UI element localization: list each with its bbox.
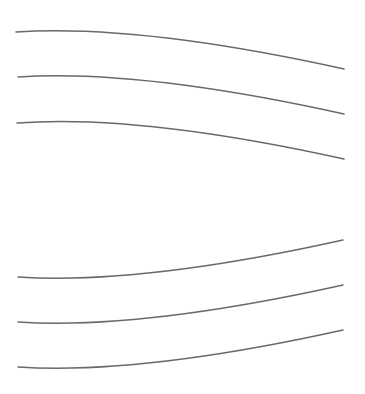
upper-arc-2 — [18, 76, 344, 114]
lower-arc-2 — [18, 285, 343, 323]
upper-arc-3 — [17, 122, 344, 160]
lower-arcs-group — [18, 240, 343, 368]
curved-lines-diagram — [0, 0, 365, 394]
upper-arcs-group — [16, 31, 344, 159]
lower-arc-3 — [18, 330, 343, 368]
lower-arc-1 — [18, 240, 343, 278]
upper-arc-1 — [16, 31, 344, 69]
